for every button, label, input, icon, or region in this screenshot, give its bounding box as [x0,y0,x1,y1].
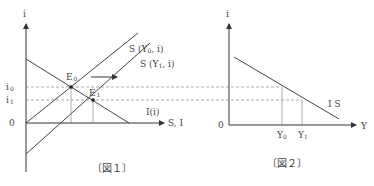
is-curve [234,57,339,119]
is-curve-label: I S [328,99,341,109]
i0-label: i0 [6,82,14,92]
e0-label: E0 [66,72,78,82]
fig1-origin-label: 0 [9,118,15,128]
fig2-x-axis-label: Y [360,121,368,131]
fig2-y-axis-label: i [226,9,229,19]
e1-point [91,98,95,102]
curve-s1-label: S (Y1, i) [140,59,174,69]
savings-curve-y1 [26,43,150,154]
fig1-y-axis-label: i [23,9,26,19]
fig2-origin-label: 0 [218,120,224,130]
curve-i-label: I(i) [146,107,159,117]
figure-2: i Y 0 I S Y0 Y1 〔図２〕 [218,9,368,169]
i1-label: i1 [6,95,14,105]
savings-curve-y0 [26,33,138,123]
diagram-canvas: i S, I 0 i0 i1 E0 E1 S (Y0, i) S (Y1, i)… [0,0,374,186]
figure-1: i S, I 0 i0 i1 E0 E1 S (Y0, i) S (Y1, i)… [6,9,302,174]
fig1-x-axis-label: S, I [168,118,184,128]
investment-curve [26,59,129,123]
curve-s0-label: S (Y0, i) [129,44,163,54]
e0-point [69,85,73,89]
fig2-caption: 〔図２〕 [267,158,307,169]
y0-label: Y0 [276,130,287,140]
y1-label: Y1 [297,130,308,140]
fig1-caption: 〔図１〕 [92,163,132,174]
